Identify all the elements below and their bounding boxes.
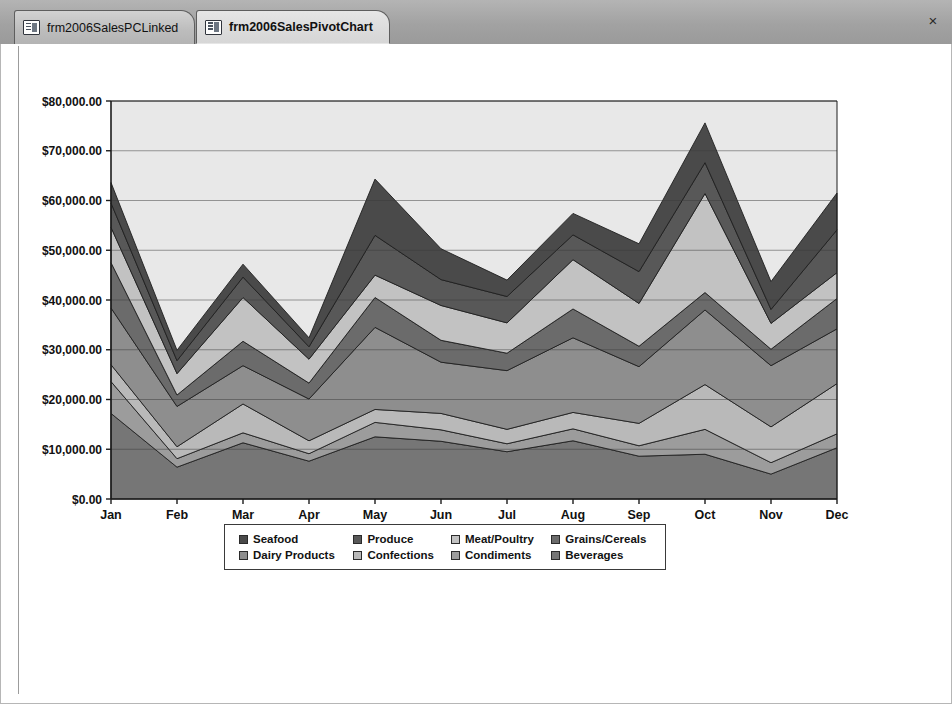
pivot-chart-svg: $0.00$10,000.00$20,000.00$30,000.00$40,0… <box>19 46 935 606</box>
legend-label: Condiments <box>465 549 531 561</box>
form-datasheet-icon <box>23 20 40 35</box>
legend-swatch-beverages <box>551 551 560 560</box>
legend-label: Produce <box>367 533 413 545</box>
form-body: $0.00$10,000.00$20,000.00$30,000.00$40,0… <box>0 44 952 704</box>
svg-text:Sep: Sep <box>628 508 651 522</box>
svg-text:Jun: Jun <box>430 508 452 522</box>
tab-label: frm2006SalesPivotChart <box>229 20 373 34</box>
legend-swatch-meat-poultry <box>451 535 460 544</box>
svg-text:$40,000.00: $40,000.00 <box>42 294 102 308</box>
legend-label: Seafood <box>253 533 298 545</box>
svg-text:$60,000.00: $60,000.00 <box>42 194 102 208</box>
svg-text:$80,000.00: $80,000.00 <box>42 95 102 109</box>
legend-cell[interactable]: Condiments <box>447 547 547 563</box>
legend-label: Confections <box>367 549 433 561</box>
svg-text:Dec: Dec <box>826 508 849 522</box>
svg-text:Nov: Nov <box>759 508 783 522</box>
legend-cell[interactable]: Grains/Cereals <box>547 531 661 547</box>
x-axis-tick-labels: JanFebMarAprMayJunJulAugSepOctNovDec <box>100 508 848 522</box>
legend-swatch-produce <box>353 535 362 544</box>
svg-text:$70,000.00: $70,000.00 <box>42 144 102 158</box>
tab-label: frm2006SalesPCLinked <box>47 21 178 35</box>
legend-cell[interactable]: Beverages <box>547 547 661 563</box>
svg-text:$30,000.00: $30,000.00 <box>42 343 102 357</box>
form-detail-section: $0.00$10,000.00$20,000.00$30,000.00$40,0… <box>18 46 934 694</box>
legend-cell[interactable]: Seafood <box>235 531 349 547</box>
tab-frm2006salespivotchart[interactable]: frm2006SalesPivotChart <box>196 10 390 44</box>
legend-cell[interactable]: Produce <box>349 531 447 547</box>
svg-text:Apr: Apr <box>298 508 320 522</box>
legend-cell[interactable]: Meat/Poultry <box>447 531 547 547</box>
y-axis-tick-labels: $0.00$10,000.00$20,000.00$30,000.00$40,0… <box>42 95 102 507</box>
svg-text:Jul: Jul <box>498 508 516 522</box>
legend-row: Dairy Products Confections <box>235 547 661 563</box>
legend-label: Beverages <box>565 549 623 561</box>
legend-table: Seafood Produce Meat/P <box>235 531 661 563</box>
tab-frm2006salespclinked[interactable]: frm2006SalesPCLinked <box>14 10 195 44</box>
close-icon[interactable]: × <box>922 9 944 31</box>
svg-text:May: May <box>363 508 387 522</box>
legend-swatch-condiments <box>451 551 460 560</box>
legend-cell[interactable]: Dairy Products <box>235 547 349 563</box>
legend-label: Meat/Poultry <box>465 533 534 545</box>
legend-swatch-seafood <box>239 535 248 544</box>
svg-text:$20,000.00: $20,000.00 <box>42 393 102 407</box>
svg-text:Aug: Aug <box>561 508 585 522</box>
svg-text:Oct: Oct <box>695 508 717 522</box>
svg-text:$10,000.00: $10,000.00 <box>42 443 102 457</box>
chart-legend[interactable]: Seafood Produce Meat/P <box>224 524 666 570</box>
legend-swatch-grains-cereals <box>551 535 560 544</box>
document-tab-strip: frm2006SalesPCLinked frm2006SalesPivotCh… <box>0 0 952 44</box>
legend-swatch-confections <box>353 551 362 560</box>
access-form-window: frm2006SalesPCLinked frm2006SalesPivotCh… <box>0 0 952 704</box>
legend-swatch-dairy-products <box>239 551 248 560</box>
form-datasheet-icon <box>205 20 222 35</box>
svg-text:Feb: Feb <box>166 508 189 522</box>
legend-row: Seafood Produce Meat/P <box>235 531 661 547</box>
legend-cell[interactable]: Confections <box>349 547 447 563</box>
legend-label: Dairy Products <box>253 549 335 561</box>
legend-label: Grains/Cereals <box>565 533 646 545</box>
pivot-chart[interactable]: $0.00$10,000.00$20,000.00$30,000.00$40,0… <box>19 46 935 606</box>
svg-text:Jan: Jan <box>100 508 122 522</box>
svg-text:$50,000.00: $50,000.00 <box>42 244 102 258</box>
svg-text:$0.00: $0.00 <box>72 493 102 507</box>
svg-text:Mar: Mar <box>232 508 254 522</box>
